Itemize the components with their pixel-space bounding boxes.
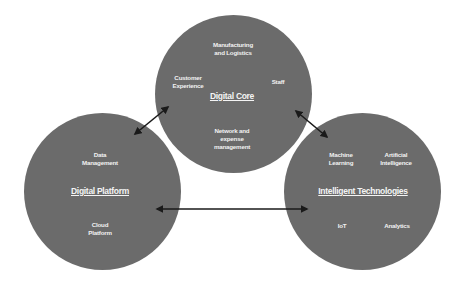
label-analytics: Analytics (384, 222, 410, 230)
label-line: Cloud (88, 221, 112, 229)
label-customer-experience: Customer Experience (172, 74, 203, 90)
title-intelligent-technologies: Intelligent Technologies (318, 186, 407, 196)
label-cloud-platform: Cloud Platform (88, 221, 112, 237)
label-manufacturing-logistics: Manufacturing and Logistics (213, 41, 253, 57)
label-line: Experience (172, 82, 203, 90)
label-line: Staff (272, 78, 285, 86)
label-data-management: Data Management (82, 151, 118, 167)
label-line: Management (82, 159, 118, 167)
title-digital-core: Digital Core (210, 91, 254, 101)
label-line: Data (82, 151, 118, 159)
label-line: expense (214, 135, 250, 143)
arrow-core-intelligent (296, 111, 327, 137)
label-staff: Staff (272, 78, 285, 86)
label-artificial-intelligence: Artificial Intelligence (380, 151, 412, 167)
arrow-platform-core (135, 107, 168, 134)
label-line: Network and (214, 127, 250, 135)
label-line: Learning (329, 159, 354, 167)
label-line: Artificial (380, 151, 412, 159)
label-line: and Logistics (213, 49, 253, 57)
label-line: Manufacturing (213, 41, 253, 49)
title-digital-platform: Digital Platform (71, 186, 129, 196)
label-line: Platform (88, 229, 112, 237)
label-line: IoT (338, 222, 347, 230)
label-line: management (214, 143, 250, 151)
label-line: Customer (172, 74, 203, 82)
label-line: Analytics (384, 222, 410, 230)
label-machine-learning: Machine Learning (329, 151, 354, 167)
label-line: Machine (329, 151, 354, 159)
label-line: Intelligence (380, 159, 412, 167)
label-network-expense: Network and expense management (214, 127, 250, 151)
label-iot: IoT (338, 222, 347, 230)
